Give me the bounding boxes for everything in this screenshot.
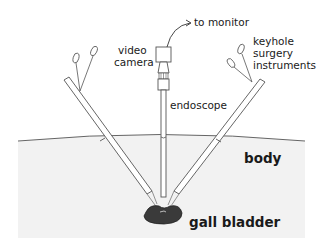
video-camera-box xyxy=(156,47,171,62)
endoscope-tube xyxy=(161,90,166,197)
label-body: body xyxy=(244,151,281,165)
to-monitor-arrow xyxy=(167,23,190,47)
label-surgery: surgery xyxy=(253,48,293,59)
label-instruments: instruments xyxy=(253,60,316,71)
label-endoscope: endoscope xyxy=(170,100,227,111)
keyhole-surgery-diagram: to monitor video camera keyhole surgery … xyxy=(0,0,330,248)
label-camera: camera xyxy=(114,57,154,68)
label-gall-bladder: gall bladder xyxy=(189,215,280,229)
label-to-monitor: to monitor xyxy=(194,17,249,28)
label-video: video xyxy=(118,45,147,56)
label-keyhole: keyhole xyxy=(253,36,294,47)
gall-bladder-shape xyxy=(144,206,182,224)
